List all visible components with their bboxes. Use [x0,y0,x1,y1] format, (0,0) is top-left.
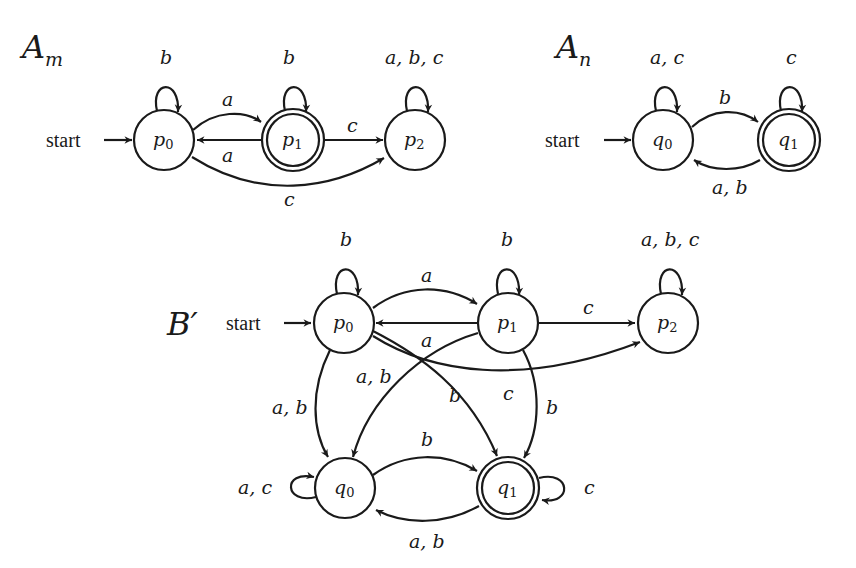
transition-label: a, b [409,530,445,552]
state-q1-accepting: q1 [758,109,820,171]
transition-p0-p0 [336,269,358,295]
start-label: start [226,312,261,334]
transition-label: a, b, c [385,46,444,68]
transition-q0-q0 [655,87,677,112]
transition-label: b [421,428,433,450]
automaton-a-m: Am start b b a, b, c a a c c p0 p1 [19,28,445,210]
transition-p0-p1 [373,289,477,308]
transition-q1-q1 [539,477,564,501]
automaton-a-n: An start a, c c b a, b q0 q1 [545,28,820,198]
transition-p0-q0 [316,350,331,457]
transition-label: c [347,114,358,136]
transition-p0-p1 [193,114,261,130]
transition-label: c [584,476,595,498]
state-p0: p0 [134,110,194,170]
transition-label: a, c [238,476,272,498]
state-p1-accepting: p1 [262,109,324,171]
state-q0: q0 [633,110,693,170]
transition-label: b [449,384,461,406]
automaton-title: An [553,28,591,70]
state-q1-accepting: q1 [477,457,539,519]
transition-label: a, b [272,396,308,418]
transition-q1-q0 [694,160,760,169]
transition-label: b [501,228,513,250]
state-p1: p1 [478,293,538,353]
transition-p1-p1 [497,269,519,295]
transition-label: a, b [712,176,748,198]
start-label: start [46,129,81,151]
transition-label: c [583,296,594,318]
transition-q0-q1 [373,457,477,475]
transition-label: a [222,144,233,166]
transition-p2-p2 [406,87,428,112]
automaton-title: Am [19,28,63,70]
transition-label: a [421,264,432,286]
transition-p2-p2 [660,269,682,295]
transition-label: b [719,86,731,108]
transition-label: a [222,88,233,110]
transition-p0-q1 [373,331,497,456]
transition-label: a, c [650,46,684,68]
transition-label: b [283,46,295,68]
state-q0: q0 [315,458,375,518]
transition-label: c [786,46,797,68]
transition-label: c [503,382,514,404]
transition-q0-q0 [291,476,316,498]
transition-label: a, b, c [641,228,700,250]
transition-label: b [546,396,558,418]
transition-label: a, b [356,365,392,387]
automaton-b-prime: B′ start b b a, b, c a a c c a, b a, b b… [166,228,700,552]
transition-q0-q1 [692,112,758,127]
state-p2: p2 [385,110,445,170]
transition-label: c [284,188,295,210]
transition-q1-q0 [376,506,479,521]
transition-label: b [160,46,172,68]
transition-label: a [421,329,432,351]
transition-p0-p0 [156,87,178,112]
state-p2: p2 [638,293,698,353]
transition-p1-q1 [523,350,537,458]
state-p0: p0 [314,293,374,353]
transition-label: b [340,228,352,250]
automaton-title: B′ [166,305,199,343]
start-label: start [545,129,580,151]
automata-diagram: Am start b b a, b, c a a c c p0 p1 [0,0,856,568]
